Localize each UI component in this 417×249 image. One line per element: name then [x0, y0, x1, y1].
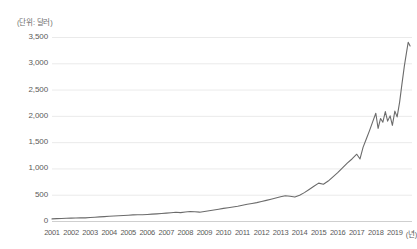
- x-tick-label: 2001: [44, 228, 60, 237]
- x-tick-label: 2010: [216, 228, 232, 237]
- y-tick-label: 1,500: [4, 138, 48, 146]
- x-tick-label: 2012: [254, 228, 270, 237]
- x-tick-label: 2006: [139, 228, 155, 237]
- x-tick-label: 2005: [120, 228, 136, 237]
- x-tick-label: 2004: [101, 228, 117, 237]
- x-tick-label: 2016: [330, 228, 346, 237]
- x-tick-label: 2018: [368, 228, 384, 237]
- x-tick-label: 2013: [273, 228, 289, 237]
- x-axis-unit-label: (년): [406, 228, 417, 239]
- x-tick-label: 2015: [311, 228, 327, 237]
- y-tick-label: 500: [4, 191, 48, 199]
- x-tick-label: 2011: [235, 228, 250, 237]
- x-tick-label: 2017: [349, 228, 365, 237]
- x-tick-label: 2003: [82, 228, 98, 237]
- x-tick-label: 2019: [387, 228, 403, 237]
- x-tick-label: 2014: [292, 228, 308, 237]
- y-tick-label: 3,000: [4, 59, 48, 67]
- y-tick-label: 3,500: [4, 33, 48, 41]
- y-tick-label: 1,000: [4, 164, 48, 172]
- y-tick-label: 2,500: [4, 86, 48, 94]
- y-tick-label: 2,000: [4, 112, 48, 120]
- x-tick-label: 2002: [63, 228, 79, 237]
- x-tick-label: 2008: [178, 228, 194, 237]
- y-axis-ticks: 3,5003,0002,5002,0001,5001,0005000: [0, 0, 48, 249]
- x-tick-label: 2007: [159, 228, 175, 237]
- y-tick-label: 0: [4, 217, 48, 225]
- data-line: [52, 42, 410, 219]
- x-tick-label: 2009: [197, 228, 213, 237]
